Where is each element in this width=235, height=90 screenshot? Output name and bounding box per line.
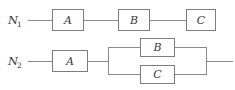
n2-block-b: B (141, 39, 175, 57)
n2-block-a: A (53, 51, 88, 72)
n2-block-c: C (141, 66, 175, 84)
n1-block-b: B (119, 10, 150, 31)
n2-block-a-label: A (65, 55, 74, 68)
network-n1-group: A B C N 1 (7, 10, 216, 31)
n1-block-c: C (187, 10, 216, 31)
n1-block-b-label: B (129, 14, 138, 27)
n1-block-a-label: A (63, 14, 72, 27)
n2-block-b-label: B (152, 41, 161, 54)
n2-network-label-subscript: 2 (17, 61, 22, 70)
n1-network-label-subscript: 1 (17, 20, 22, 29)
n2-block-c-label: C (153, 68, 162, 81)
diagram-canvas: A B C N 1 (0, 0, 235, 90)
n1-block-a: A (53, 10, 84, 31)
reliability-block-diagram: A B C N 1 (0, 0, 235, 90)
network-n2-group: B C A N 2 (7, 39, 233, 84)
n1-block-c-label: C (197, 14, 206, 27)
